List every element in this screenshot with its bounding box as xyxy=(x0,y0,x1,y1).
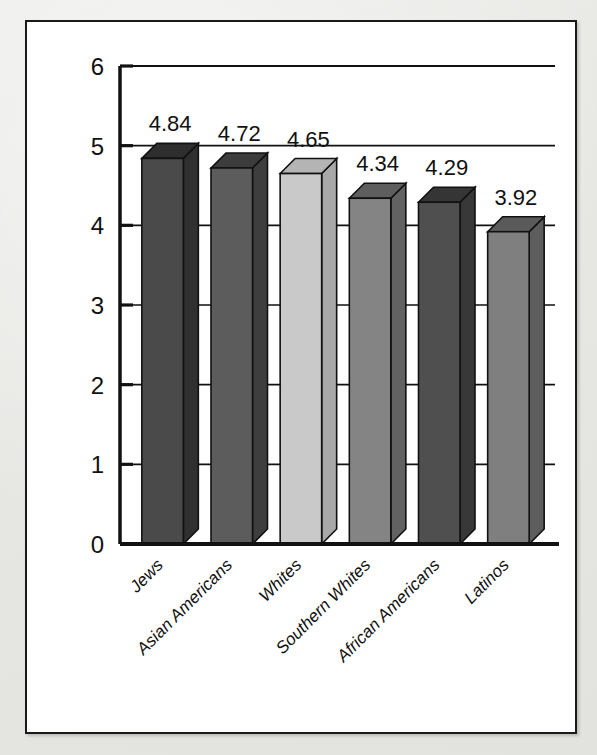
category-label-0: Jews xyxy=(125,555,167,597)
value-label-1: 4.72 xyxy=(218,121,261,146)
category-label-2: Whites xyxy=(255,555,306,606)
y-axis xyxy=(120,66,133,544)
category-label-5: Latinos xyxy=(461,555,514,608)
y-tick-label: 6 xyxy=(91,53,104,80)
y-tick-label: 2 xyxy=(91,372,104,399)
chart-svg: 0123456 4.844.724.654.344.293.92 JewsAsi… xyxy=(27,22,575,732)
bar-side-face xyxy=(253,153,268,544)
value-label-5: 3.92 xyxy=(495,185,538,210)
bar-front-face xyxy=(349,198,391,544)
bar-front-face xyxy=(211,168,253,544)
y-tick-label: 4 xyxy=(91,212,104,239)
bar-5 xyxy=(488,217,545,544)
bar-2 xyxy=(280,159,336,544)
value-label-3: 4.34 xyxy=(356,151,399,176)
bar-4 xyxy=(419,187,476,544)
figure-frame: 0123456 4.844.724.654.344.293.92 JewsAsi… xyxy=(25,20,577,734)
bar-3 xyxy=(349,183,406,544)
y-tick-labels: 0123456 xyxy=(91,53,104,558)
bar-1 xyxy=(211,153,268,544)
bars xyxy=(142,143,544,544)
bar-side-face xyxy=(183,143,198,544)
bar-front-face xyxy=(419,202,461,544)
value-label-2: 4.65 xyxy=(287,127,330,152)
y-tick-label: 0 xyxy=(91,531,104,558)
value-label-0: 4.84 xyxy=(149,111,192,136)
bar-chart: 0123456 4.844.724.654.344.293.92 JewsAsi… xyxy=(27,22,575,732)
value-labels: 4.844.724.654.344.293.92 xyxy=(149,111,538,209)
category-labels: JewsAsian AmericansWhitesSouthern Whites… xyxy=(125,555,513,667)
y-tick-label: 3 xyxy=(91,292,104,319)
bar-0 xyxy=(142,143,198,544)
bar-side-face xyxy=(322,159,337,544)
y-tick-label: 5 xyxy=(91,133,104,160)
bar-side-face xyxy=(391,183,406,544)
bar-side-face xyxy=(460,187,475,544)
bar-front-face xyxy=(280,174,322,544)
bar-front-face xyxy=(142,158,184,544)
bar-front-face xyxy=(488,232,529,544)
bar-side-face xyxy=(529,217,544,544)
value-label-4: 4.29 xyxy=(425,155,468,180)
y-tick-label: 1 xyxy=(91,451,104,478)
